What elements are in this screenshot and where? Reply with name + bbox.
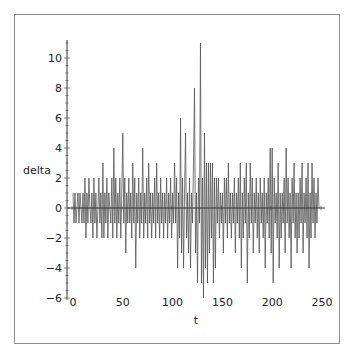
- x-axis-title: t: [194, 314, 199, 327]
- x-tick-label: 250: [312, 296, 333, 309]
- x-tick-label: 200: [262, 296, 283, 309]
- data-line-delta: [73, 43, 319, 298]
- y-tick-label: 6: [55, 112, 62, 125]
- y-tick-label: −6: [46, 292, 62, 305]
- x-tick-label: 150: [212, 296, 233, 309]
- y-tick-label: 8: [55, 82, 62, 95]
- x-tick-label: 50: [116, 296, 130, 309]
- y-tick-label: 4: [55, 142, 62, 155]
- chart-canvas: 050100150200250−6−4−20246810tdelta: [0, 0, 352, 360]
- y-tick-label: −2: [46, 232, 62, 245]
- x-tick-label: 100: [162, 296, 183, 309]
- y-tick-label: 10: [48, 52, 62, 65]
- y-tick-label: 0: [55, 202, 62, 215]
- y-axis-title: delta: [23, 164, 51, 177]
- series-line-delta: [73, 43, 319, 298]
- x-tick-label: 0: [70, 296, 77, 309]
- y-tick-label: −4: [46, 262, 62, 275]
- y-tick-label: 2: [55, 172, 62, 185]
